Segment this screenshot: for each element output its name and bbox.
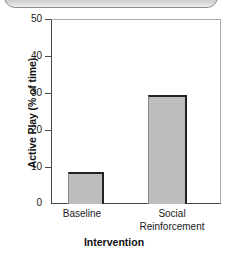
- y-tick-label-10: 10: [16, 162, 42, 172]
- y-axis-title: Active Play (% of time): [26, 18, 38, 208]
- x-tick-label-social-reinforcement-line1: Social: [122, 208, 222, 221]
- y-tick-label-0: 0: [16, 198, 42, 208]
- x-tick-label-baseline-line1: Baseline: [42, 208, 122, 221]
- bar-baseline: [68, 172, 104, 204]
- y-tick-label-40: 40: [16, 51, 42, 61]
- bar-social-reinforcement: [148, 95, 187, 204]
- y-tick-label-20: 20: [16, 125, 42, 135]
- x-tick-label-social-reinforcement-line2: Reinforcement: [122, 221, 222, 234]
- y-tick-label-50: 50: [16, 14, 42, 24]
- bar-chart-figure: Active Play (% of time) 50 40 30 20 10 0…: [0, 0, 228, 254]
- x-axis-title: Intervention: [0, 236, 228, 248]
- plot-area: [51, 19, 221, 204]
- y-tick-label-30: 30: [16, 88, 42, 98]
- x-tick-label-baseline: Baseline: [42, 208, 122, 221]
- x-tick-label-social-reinforcement: Social Reinforcement: [122, 208, 222, 233]
